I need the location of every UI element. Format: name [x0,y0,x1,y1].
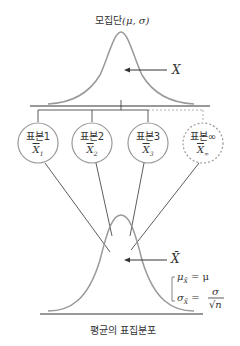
sd-numerator: σ [212,286,219,297]
population-title: 모집단(μ, σ) [95,12,150,27]
sample-label-3: 표본3 [128,128,168,143]
sample-label-2: 표본2 [72,128,112,143]
sample-label-inf: 표본∞ [183,128,223,143]
sampling-caption: 평균의 표집분포 [90,322,156,337]
sample-mean-3: X3 [128,144,168,157]
sd-denominator: √n [209,299,222,310]
sd-formula: σX̄ = [177,292,200,305]
sample-mean-inf: X∞ [183,144,223,157]
sample-label-1: 표본1 [18,128,58,143]
population-variable: X [172,63,181,77]
sample-mean-1: X1 [18,144,58,157]
mean-formula: μX̄ = μ [177,271,209,284]
diagram-canvas [0,0,240,346]
sampling-variable: X̄ [171,252,180,266]
sample-mean-2: X2 [72,144,112,157]
